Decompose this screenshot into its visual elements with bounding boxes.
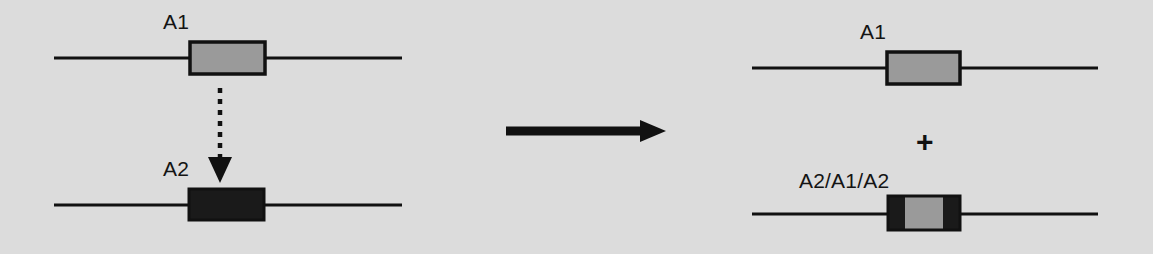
left-top-allele-group (54, 42, 402, 74)
left-bottom-allele-box (189, 189, 264, 220)
right-top-allele-group (752, 52, 1098, 84)
right-bottom-segment-a1-middle (905, 196, 943, 230)
left-top-allele-label: A1 (163, 11, 189, 32)
right-bottom-allele-group (752, 196, 1098, 230)
gene-targeting-diagram: A1 A2 A1 + A2/A1/A2 (0, 0, 1153, 254)
right-bottom-segment-a2-left (888, 196, 905, 230)
right-bottom-segment-a2-right (943, 196, 960, 230)
diagram-canvas (0, 0, 1153, 254)
process-arrow-head (640, 120, 666, 142)
dashed-down-arrow-group (208, 88, 232, 183)
right-top-allele-label: A1 (860, 21, 886, 42)
left-bottom-allele-group (54, 189, 402, 220)
process-arrow-group (506, 120, 666, 142)
right-bottom-allele-label: A2/A1/A2 (799, 170, 889, 191)
plus-operator: + (916, 127, 934, 157)
left-top-allele-box (190, 42, 265, 74)
right-top-allele-box (887, 52, 960, 84)
dashed-down-arrow-head (208, 157, 232, 183)
left-bottom-allele-label: A2 (163, 158, 189, 179)
